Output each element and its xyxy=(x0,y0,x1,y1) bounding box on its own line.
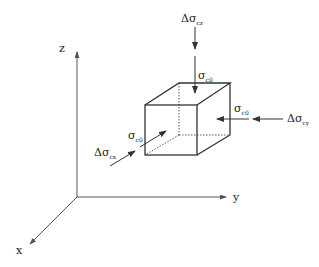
x-axis-label: x xyxy=(16,244,23,257)
label-delta-sigma-cy: Δσcy xyxy=(287,112,310,127)
z-axis-label: z xyxy=(59,42,65,55)
stress-labels: Δσcz σc0 σc0 Δσcy σc0 Δσcx xyxy=(94,12,310,160)
label-delta-sigma-cx: Δσcx xyxy=(94,146,117,160)
label-delta-sigma-cz: Δσcz xyxy=(181,12,203,26)
cube-front-face xyxy=(145,105,197,155)
label-sigma-c0-right: σc0 xyxy=(234,102,249,116)
cube-hidden-edge-diagonal xyxy=(145,135,179,155)
cube-top-face xyxy=(145,83,230,105)
stress-cube-diagram: z y x Δσcz xyxy=(0,0,319,267)
x-axis xyxy=(30,197,77,244)
diagram-canvas: z y x Δσcz xyxy=(0,0,319,267)
label-sigma-c0-top: σc0 xyxy=(198,69,213,83)
y-axis-label: y xyxy=(232,191,240,204)
label-sigma-c0-left: σc0 xyxy=(128,129,143,143)
